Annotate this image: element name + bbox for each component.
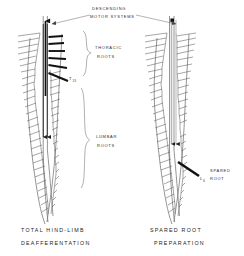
lumbar-roots-label-line2: ROOTS xyxy=(97,143,115,148)
annotation-line2: MOTOR SYSTEMS xyxy=(90,14,135,19)
severed-root-2 xyxy=(49,43,65,44)
right-panel-caption-line1: SPARED ROOT xyxy=(150,227,202,233)
lumbar-roots-label-line1: LUMBAR xyxy=(96,134,117,139)
spinal-cord-diagram-svg: T 13 TOTAL HIND-LIMB DEAFFERENTATION xyxy=(0,0,244,256)
left-panel-caption-line2: DEAFFERENTATION xyxy=(21,240,90,246)
thoracic-roots-label-line1: THORACIC xyxy=(95,45,122,50)
right-panel-tract-origin-marker xyxy=(170,19,174,22)
thoracic-roots-label-line2: ROOTS xyxy=(97,54,115,59)
right-panel-caption-line2: PREPARATION xyxy=(154,240,205,246)
spared-root-label-line1: SPARED xyxy=(210,168,231,173)
anatomical-diagram: T 13 TOTAL HIND-LIMB DEAFFERENTATION xyxy=(0,0,244,256)
segment-label-t13-base: T xyxy=(69,76,72,81)
left-panel-caption-line1: TOTAL HIND-LIMB xyxy=(21,227,85,233)
annotation-line1: DESCENDING xyxy=(92,6,126,11)
spared-root-label-line2: ROOT xyxy=(210,176,225,181)
severed-root-4 xyxy=(49,58,67,59)
segment-label-t13-sub: 13 xyxy=(73,79,77,83)
severed-root-1 xyxy=(49,36,64,37)
